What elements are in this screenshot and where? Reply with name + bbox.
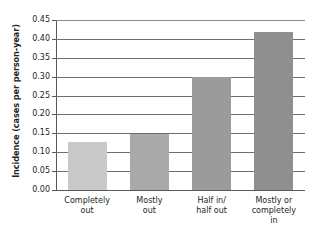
chart-figure: · · · · · · · Incidence (cases per perso… xyxy=(0,0,313,233)
y-tick-label: 0.20 xyxy=(24,110,50,118)
x-category-label: Mostly or completely in xyxy=(243,196,305,226)
x-category-label: Completely out xyxy=(56,196,118,216)
y-tick-0.10 xyxy=(52,152,56,153)
x-axis-line xyxy=(56,190,305,191)
y-tick-label: 0.30 xyxy=(24,73,50,81)
plot-area xyxy=(56,20,305,190)
y-tick-0.05 xyxy=(52,171,56,172)
bar xyxy=(130,134,169,190)
y-tick-0.20 xyxy=(52,114,56,115)
bar xyxy=(68,142,107,190)
y-tick-0.40 xyxy=(52,39,56,40)
bar xyxy=(192,77,231,190)
y-tick-0.30 xyxy=(52,77,56,78)
cropped-caption-sliver: · · · · · · · xyxy=(18,0,298,7)
y-tick-0.25 xyxy=(52,96,56,97)
x-axis-category-labels: Completely outMostly outHalf in/ half ou… xyxy=(56,196,305,233)
y-tick-label: 0.40 xyxy=(24,35,50,43)
y-tick-label: 0.05 xyxy=(24,167,50,175)
y-tick-0.00 xyxy=(52,190,56,191)
gridline-0.45 xyxy=(56,20,305,21)
y-tick-label: 0.15 xyxy=(24,129,50,137)
y-tick-label: 0.10 xyxy=(24,148,50,156)
bar xyxy=(254,32,293,190)
y-tick-label: 0.00 xyxy=(24,186,50,194)
x-category-label: Half in/ half out xyxy=(181,196,243,216)
y-tick-label: 0.25 xyxy=(24,92,50,100)
x-category-label: Mostly out xyxy=(118,196,180,216)
y-tick-label: 0.35 xyxy=(24,54,50,62)
y-tick-0.15 xyxy=(52,133,56,134)
y-axis-title: Incidence (cases per person-year) xyxy=(11,11,21,191)
y-tick-label: 0.45 xyxy=(24,16,50,24)
y-tick-0.35 xyxy=(52,58,56,59)
y-axis-tick-labels: 0.450.400.350.300.250.200.150.100.050.00 xyxy=(22,20,50,190)
y-tick-0.45 xyxy=(52,20,56,21)
